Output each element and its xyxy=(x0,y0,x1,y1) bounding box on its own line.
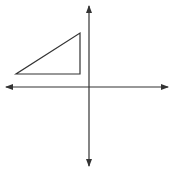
coordinate-plane-diagram xyxy=(0,0,175,176)
right-triangle xyxy=(16,33,80,74)
